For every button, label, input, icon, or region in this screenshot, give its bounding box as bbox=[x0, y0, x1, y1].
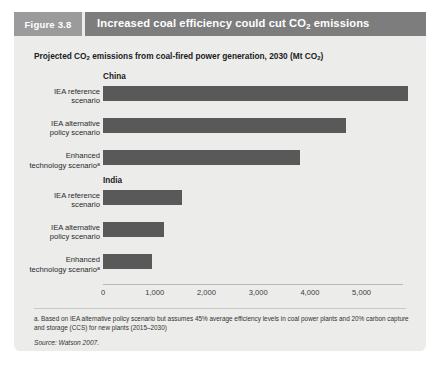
chart-subtitle: Projected CO2 emissions from coal-fired … bbox=[34, 51, 323, 61]
category-label-text: technology scenario bbox=[29, 265, 97, 274]
bar-india-iea-alternative bbox=[103, 222, 164, 237]
category-label-line: Enhanced bbox=[14, 151, 100, 160]
x-axis-tick-label: 5,000 bbox=[352, 288, 371, 297]
category-label-line: policy scenario bbox=[14, 128, 100, 137]
group-label-india: India bbox=[103, 176, 122, 185]
category-label-india-1: IEA alternative policy scenario bbox=[14, 223, 100, 241]
x-axis-tick-label: 1,000 bbox=[145, 288, 164, 297]
bar-india-iea-reference bbox=[103, 190, 182, 205]
bar-china-iea-reference bbox=[103, 86, 408, 101]
figure-title: Increased coal efficiency could cut CO2 … bbox=[97, 17, 369, 31]
figure-number-label: Figure 3.8 bbox=[25, 19, 72, 30]
category-label-china-0: IEA reference scenario bbox=[14, 87, 100, 105]
x-axis-tick-label: 2,000 bbox=[197, 288, 216, 297]
bar-china-iea-alternative bbox=[103, 118, 346, 133]
category-label-line: scenario bbox=[14, 96, 100, 105]
category-label-line: technology scenarioa bbox=[14, 160, 100, 170]
figure-header: Figure 3.8 Increased coal efficiency cou… bbox=[14, 12, 426, 36]
figure-panel: Figure 3.8 Increased coal efficiency cou… bbox=[14, 12, 426, 351]
bar-row-china-0 bbox=[103, 86, 403, 101]
subtitle-post: ) bbox=[321, 51, 324, 61]
category-label-china-1: IEA alternative policy scenario bbox=[14, 119, 100, 137]
bar-row-india-2 bbox=[103, 254, 403, 269]
x-axis-line bbox=[103, 284, 403, 285]
category-label-line: policy scenario bbox=[14, 232, 100, 241]
figure-footnote: a. Based on IEA alternative policy scena… bbox=[34, 314, 412, 332]
category-label-line: IEA reference bbox=[14, 191, 100, 200]
chart-plot-area: China IEA reference scenario IEA alterna… bbox=[14, 72, 426, 298]
subtitle-mid: emissions from coal-fired power generati… bbox=[90, 51, 317, 61]
bar-row-china-2 bbox=[103, 150, 403, 165]
bar-china-enhanced-technology bbox=[103, 150, 300, 165]
subtitle-pre: Projected CO bbox=[34, 51, 87, 61]
figure-title-post: emissions bbox=[311, 17, 370, 29]
category-label-line: scenario bbox=[14, 200, 100, 209]
bar-india-enhanced-technology bbox=[103, 254, 152, 269]
x-axis-tick-label: 4,000 bbox=[300, 288, 319, 297]
figure-number-tab: Figure 3.8 bbox=[14, 12, 82, 36]
category-label-text: technology scenario bbox=[29, 161, 97, 170]
category-label-line: technology scenarioa bbox=[14, 264, 100, 274]
category-label-india-0: IEA reference scenario bbox=[14, 191, 100, 209]
bar-row-china-1 bbox=[103, 118, 403, 133]
footnote-marker-a: a bbox=[97, 161, 100, 167]
category-label-line: Enhanced bbox=[14, 255, 100, 264]
category-label-line: IEA alternative bbox=[14, 119, 100, 128]
figure-title-bar: Increased coal efficiency could cut CO2 … bbox=[85, 12, 426, 36]
category-label-line: IEA alternative bbox=[14, 223, 100, 232]
figure-source: Source: Watson 2007. bbox=[34, 339, 99, 346]
figure-title-pre: Increased coal efficiency could cut CO bbox=[97, 17, 306, 29]
x-axis-tick-label: 0 bbox=[101, 288, 105, 297]
bar-row-india-0 bbox=[103, 190, 403, 205]
x-axis-tick-label: 3,000 bbox=[249, 288, 268, 297]
bar-row-india-1 bbox=[103, 222, 403, 237]
group-label-china: China bbox=[103, 72, 126, 81]
category-label-india-2: Enhanced technology scenarioa bbox=[14, 255, 100, 274]
figure-body: Projected CO2 emissions from coal-fired … bbox=[14, 36, 426, 351]
footnote-marker-a: a bbox=[97, 265, 100, 271]
footnote-divider bbox=[34, 308, 406, 309]
category-label-china-2: Enhanced technology scenarioa bbox=[14, 151, 100, 170]
category-label-line: IEA reference bbox=[14, 87, 100, 96]
